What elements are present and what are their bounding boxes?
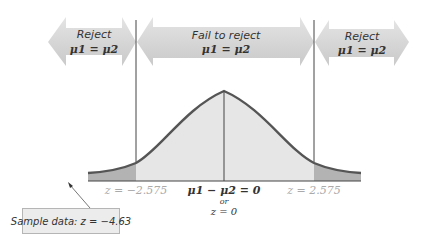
- left-critical-value: z = −2.575: [104, 184, 168, 197]
- right-critical-value: z = 2.575: [286, 184, 341, 197]
- reject-right-hypothesis: μ1 = μ2: [338, 44, 387, 57]
- center-label-or: or: [220, 197, 230, 206]
- center-label-difference: μ1 − μ2 = 0: [188, 184, 261, 197]
- reject-left-hypothesis: μ1 = μ2: [70, 43, 119, 56]
- reject-left-arrow: Reject μ1 = μ2: [48, 17, 136, 66]
- sample-pointer-line: [70, 185, 90, 208]
- fail-to-reject-arrow: Fail to reject μ1 = μ2: [137, 17, 314, 66]
- reject-right-arrow: Reject μ1 = μ2: [315, 20, 409, 66]
- center-label-z: z = 0: [210, 206, 238, 217]
- fail-to-reject-hypothesis: μ1 = μ2: [202, 43, 251, 56]
- sample-data-box: Sample data: z = −4.63: [22, 208, 120, 234]
- fail-to-reject-label: Fail to reject: [192, 29, 261, 42]
- acceptance-region: [136, 91, 314, 181]
- reject-right-label: Reject: [345, 30, 380, 43]
- reject-left-label: Reject: [77, 28, 112, 41]
